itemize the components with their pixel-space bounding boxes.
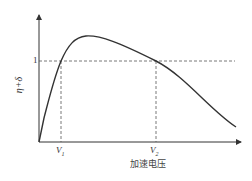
y-tick-1: 1 — [33, 56, 38, 65]
x-tick-v2: V2 — [150, 146, 159, 157]
x-tick-v1-sub: 1 — [62, 151, 65, 157]
x-axis-label: 加速电压 — [130, 160, 166, 169]
x-tick-v1: V1 — [56, 146, 65, 157]
yield-curve — [39, 36, 236, 142]
chart-canvas — [0, 0, 252, 181]
x-tick-v2-sub: 2 — [156, 151, 159, 157]
y-axis-label: η+δ — [14, 77, 24, 93]
